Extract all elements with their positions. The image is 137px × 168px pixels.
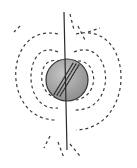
interior-dot xyxy=(68,70,69,71)
planet-sphere xyxy=(46,59,88,101)
interior-dot xyxy=(61,87,62,88)
interior-dot xyxy=(68,76,69,77)
interior-dot xyxy=(77,67,78,68)
diagram-canvas xyxy=(0,0,137,168)
interior-dot xyxy=(70,73,71,74)
interior-dot xyxy=(70,79,71,80)
interior-dot xyxy=(57,94,58,95)
polar-dash-0 xyxy=(70,14,74,30)
polar-dash-1 xyxy=(78,26,86,42)
interior-dot xyxy=(78,65,79,66)
interior-dot xyxy=(75,64,76,65)
interior-dot xyxy=(71,66,72,67)
interior-dot xyxy=(60,95,61,96)
interior-dot xyxy=(67,83,68,84)
interior-dot xyxy=(60,84,61,85)
polar-dash-6 xyxy=(14,26,20,32)
interior-dot xyxy=(63,90,64,91)
interior-dot xyxy=(74,66,75,67)
interior-dot xyxy=(67,78,68,79)
interior-dot xyxy=(62,79,63,80)
interior-dot xyxy=(61,82,62,83)
interior-dot xyxy=(69,68,70,69)
interior-dot xyxy=(57,89,58,90)
interior-dot xyxy=(63,85,64,86)
interior-dot xyxy=(55,91,56,92)
interior-dot xyxy=(71,71,72,72)
interior-dot xyxy=(75,69,76,70)
interior-dot xyxy=(58,92,59,93)
interior-dot xyxy=(64,77,65,78)
interior-dot xyxy=(54,93,55,94)
interior-dot xyxy=(60,89,61,90)
interior-dot xyxy=(73,74,74,75)
interior-dot xyxy=(67,72,68,73)
interior-dot xyxy=(71,76,72,77)
interior-dot xyxy=(58,86,59,87)
interior-dot xyxy=(64,88,65,89)
polar-dash-4 xyxy=(70,144,80,156)
interior-dot xyxy=(61,92,62,93)
interior-dot xyxy=(74,72,75,73)
polar-dash-5 xyxy=(44,136,50,148)
interior-dot xyxy=(68,81,69,82)
magnetic-field-diagram xyxy=(0,0,137,168)
polar-dash-2 xyxy=(88,28,100,32)
interior-dot xyxy=(64,82,65,83)
interior-dot xyxy=(72,63,73,64)
interior-dot xyxy=(72,69,73,70)
polar-dash-3 xyxy=(58,142,64,158)
